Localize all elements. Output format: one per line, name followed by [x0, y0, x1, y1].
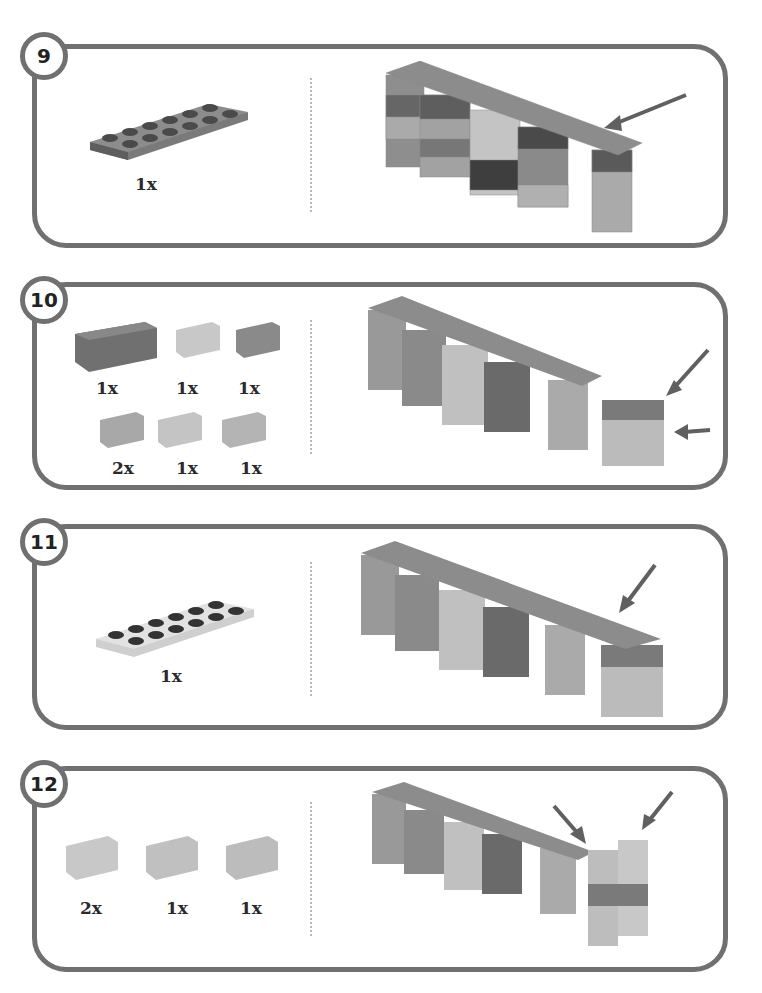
part-quantity: 1x: [96, 378, 118, 398]
brick-1x2-part: [146, 836, 206, 886]
divider: [310, 802, 312, 936]
brick-1x2-part: [226, 836, 286, 886]
part-quantity: 1x: [240, 458, 262, 478]
step-number-badge: 12: [20, 760, 68, 808]
brick-1x2-part: [100, 412, 150, 452]
brick-1x2-part: [176, 322, 226, 362]
brick-2x4-part: [75, 320, 165, 370]
part-quantity: 2x: [80, 898, 102, 918]
brick-1x2-part: [222, 412, 272, 452]
step-number: 11: [30, 530, 58, 554]
divider: [310, 562, 312, 696]
divider: [310, 320, 312, 454]
part-quantity: 1x: [166, 898, 188, 918]
brick-1x2-part: [158, 412, 208, 452]
brick-1x2-part: [66, 836, 126, 886]
step-number: 9: [37, 44, 51, 68]
part-quantity: 1x: [238, 378, 260, 398]
bridge-model-step-12: [368, 778, 698, 958]
bridge-model-step-9: [380, 55, 680, 245]
plate-2x6-light-part: [94, 595, 264, 665]
part-quantity: 1x: [135, 174, 157, 194]
step-number-badge: 10: [20, 276, 68, 324]
part-quantity: 1x: [176, 378, 198, 398]
plate-2x6-dark-part: [88, 98, 258, 168]
part-quantity: 1x: [176, 458, 198, 478]
step-number: 10: [30, 288, 58, 312]
part-quantity: 1x: [240, 898, 262, 918]
arrow-icon: [612, 95, 686, 125]
step-number-badge: 11: [20, 518, 68, 566]
bridge-model-step-10: [362, 290, 722, 480]
brick-1x2-part: [236, 322, 286, 362]
step-number: 12: [30, 772, 58, 796]
part-quantity: 2x: [112, 458, 134, 478]
divider: [310, 78, 312, 212]
bridge-model-step-11: [355, 535, 675, 725]
step-number-badge: 9: [20, 32, 68, 80]
part-quantity: 1x: [160, 666, 182, 686]
